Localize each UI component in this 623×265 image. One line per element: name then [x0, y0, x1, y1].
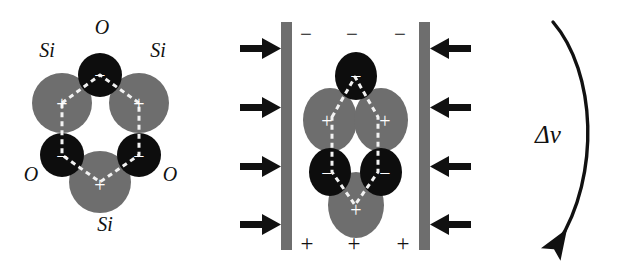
top-charge-1: − [300, 22, 312, 46]
label-si-top-right: Si [150, 39, 166, 61]
bottom-charge-3: + [397, 231, 410, 256]
plate-right [419, 22, 430, 250]
label-o-top: O [95, 16, 109, 38]
charge-o-bottom-left: − [56, 145, 67, 167]
label-si-bottom: Si [97, 213, 113, 235]
charge-o-top: − [94, 64, 105, 86]
top-charge-3: − [394, 22, 406, 46]
plate-left [281, 22, 292, 250]
charge-si-top-right-compressed: + [379, 110, 390, 132]
label-o-bottom-left: O [24, 163, 38, 185]
charge-si-top-left-compressed: + [321, 110, 332, 132]
label-si-top-left: Si [39, 39, 55, 61]
bottom-charge-1: + [301, 231, 314, 256]
top-charge-2: − [346, 22, 358, 46]
charge-si-top-right: + [133, 93, 144, 115]
charge-o-top-compressed: − [350, 65, 361, 87]
figure-canvas: + + + − − − Si Si O O O Si − − − + + + [0, 0, 623, 265]
label-o-bottom-right: O [163, 163, 177, 185]
charge-si-bottom-compressed: + [350, 199, 361, 221]
charge-o-bottom-right: − [133, 145, 144, 167]
charge-o-bottom-left-compressed: − [321, 162, 332, 184]
charge-o-bottom-right-compressed: − [379, 162, 390, 184]
label-delta-v: Δv [534, 121, 562, 148]
charge-si-top-left: + [56, 93, 67, 115]
charge-si-bottom: + [94, 174, 105, 196]
